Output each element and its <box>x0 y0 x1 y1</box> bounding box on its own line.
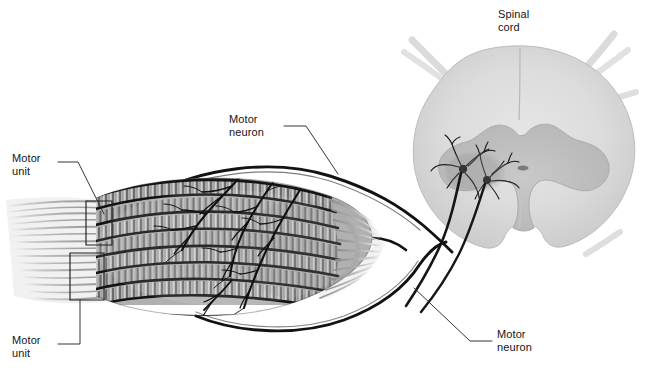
label-motor-neuron-bottom: Motor neuron <box>497 328 532 353</box>
central-canal <box>518 165 529 170</box>
dendrite-halo <box>445 152 505 192</box>
label-motor-unit-top: Motor unit <box>12 152 41 177</box>
label-motor-unit-bottom: Motor unit <box>12 334 41 359</box>
motor-unit-diagram <box>0 0 648 372</box>
label-motor-neuron-top: Motor neuron <box>229 113 264 138</box>
label-spinal-cord: Spinal cord <box>498 8 529 33</box>
